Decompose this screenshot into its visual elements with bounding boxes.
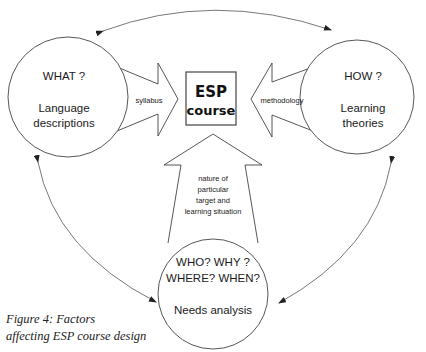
methodology-label: methodology: [261, 96, 304, 105]
figure-caption-line1: Figure 4: Factors: [5, 312, 95, 326]
what-label-line1: Language: [38, 102, 89, 114]
connector-what-needs: [38, 162, 156, 302]
how-question: HOW ?: [344, 70, 382, 82]
esp-box-line2: course: [187, 103, 236, 118]
needs-arrow-line3: target and: [196, 196, 230, 205]
needs-arrow-line1: nature of: [198, 174, 229, 183]
how-label-line2: theories: [343, 117, 384, 129]
connector-how-needs: [279, 163, 391, 303]
connector-what-how: [103, 10, 331, 31]
what-circle: [8, 37, 128, 157]
needs-arrow-line4: learning situation: [185, 207, 242, 216]
esp-box-line1: ESP: [195, 83, 227, 101]
how-circle: [300, 40, 414, 154]
how-label-line1: Learning: [341, 102, 386, 114]
needs-arrow-line2: particular: [198, 185, 229, 194]
esp-course-design-diagram: ESP course WHAT ? Language descriptions …: [0, 0, 426, 352]
who-question-line2: WHERE? WHEN?: [166, 272, 260, 284]
who-question-line1: WHO? WHY ?: [176, 256, 250, 268]
what-question: WHAT ?: [43, 70, 85, 82]
what-label-line2: descriptions: [33, 117, 95, 129]
figure-caption-line2: affecting ESP course design: [6, 329, 146, 343]
syllabus-label: syllabus: [135, 96, 162, 105]
needs-analysis-label: Needs analysis: [174, 304, 252, 316]
